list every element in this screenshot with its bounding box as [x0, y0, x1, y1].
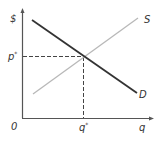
demand-label: D: [139, 89, 147, 100]
supply-demand-chart: $ S D p* 0 q* q: [0, 0, 158, 141]
y-axis-arrow-icon: [21, 8, 25, 13]
x-axis-arrow-icon: [149, 117, 154, 121]
equilibrium-guides: [23, 57, 84, 119]
q-star-label: q*: [79, 121, 88, 133]
x-axis-label: q: [139, 122, 145, 133]
p-star-label: p*: [7, 50, 17, 62]
origin-label: 0: [11, 121, 17, 132]
supply-label: S: [144, 14, 151, 25]
y-axis-label: $: [10, 13, 16, 24]
